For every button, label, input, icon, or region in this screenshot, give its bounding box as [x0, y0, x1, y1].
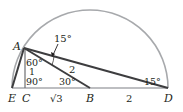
length-label-CB: √3	[50, 93, 63, 104]
angle-label-30: 30°	[59, 76, 76, 87]
angle-label-15-at-D: 15°	[144, 76, 161, 87]
length-label-BD: 2	[126, 93, 132, 104]
angle-label-15-at-A: 15°	[54, 33, 72, 44]
point-label-C: C	[22, 92, 31, 105]
point-label-E: E	[7, 92, 16, 105]
point-label-D: D	[163, 92, 173, 105]
length-label-AB: 2	[69, 64, 75, 75]
geometry-diagram: A E C B D 15° 60° 90° 30° 15° 1 2 √3 2	[0, 0, 183, 112]
angle-arc-15-at-A	[52, 56, 54, 65]
length-label-AC: 1	[29, 66, 35, 77]
angle-pointer	[53, 44, 58, 55]
angle-label-90: 90°	[26, 76, 43, 87]
point-label-A: A	[12, 40, 21, 53]
point-label-B: B	[85, 92, 94, 105]
